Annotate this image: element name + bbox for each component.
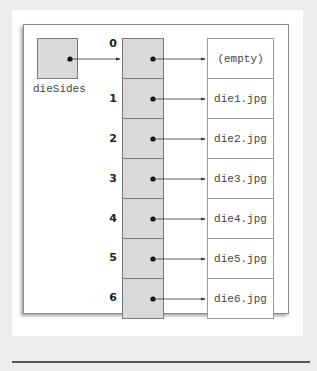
bottom-rule: [12, 361, 310, 363]
pointer-4: [150, 216, 205, 221]
pointer-2: [150, 136, 205, 141]
pointer-6: [150, 296, 205, 301]
pointer-arrows: [0, 0, 317, 371]
pointer-0: [150, 56, 205, 61]
pointer-diesides: [67, 56, 120, 61]
pointer-5: [150, 256, 205, 261]
pointer-1: [150, 96, 205, 101]
pointer-3: [150, 176, 205, 181]
